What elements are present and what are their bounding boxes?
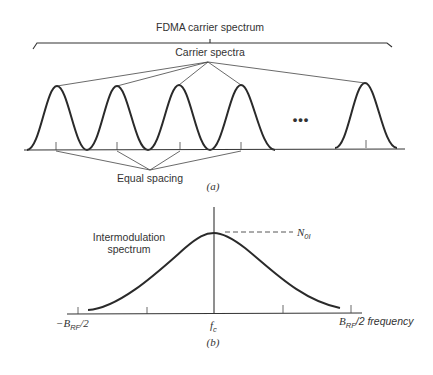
- frequency-baseline-a: [24, 149, 405, 150]
- equal-spacing-label: Equal spacing: [117, 172, 183, 184]
- fdma-diagram: FDMA carrier spectrum Carrier spectra ••…: [0, 0, 433, 375]
- caption-a: (a): [207, 180, 220, 193]
- carrier-pointer-lines: [57, 62, 365, 86]
- ellipsis: •••: [293, 112, 310, 127]
- caption-b: (b): [207, 336, 220, 349]
- frequency-axis-b: [67, 313, 362, 314]
- intermod-label-line1: Intermodulation: [93, 231, 166, 243]
- carrier-ticks: [56, 140, 366, 150]
- intermod-label-line2: spectrum: [107, 243, 150, 255]
- carrier-curves: [27, 83, 397, 150]
- noise-density-label: N0I: [296, 226, 311, 241]
- spacing-pointer-lines: [56, 151, 241, 170]
- carrier-spectra-label: Carrier spectra: [175, 46, 245, 58]
- x-label-center: fc: [210, 319, 217, 334]
- fdma-title: FDMA carrier spectrum: [156, 21, 264, 33]
- x-label-right: BRF/2 frequency: [339, 315, 414, 330]
- x-label-left: −BRF/2: [56, 317, 89, 332]
